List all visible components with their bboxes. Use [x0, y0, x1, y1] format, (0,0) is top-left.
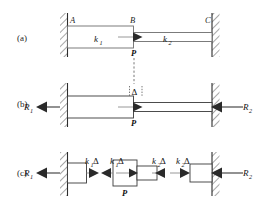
panel-a-left-wall: [60, 13, 68, 57]
panel-c-block-right-spring: [190, 164, 212, 182]
svg-text:R: R: [23, 168, 30, 178]
svg-text:R: R: [23, 102, 30, 112]
svg-text:Δ: Δ: [118, 156, 124, 166]
svg-text:1: 1: [100, 39, 103, 46]
svg-text:1: 1: [30, 107, 33, 114]
panel-a-label: (a): [17, 33, 27, 43]
panel-a-node-B: B: [130, 15, 135, 25]
svg-text:2: 2: [169, 39, 172, 46]
svg-text:Δ: Δ: [184, 156, 190, 166]
panel-a-right-wall: [212, 13, 220, 57]
panel-a-node-A: A: [69, 15, 76, 25]
engineering-figure: (a) A B C k 1 k 2: [0, 0, 262, 212]
svg-text:Δ: Δ: [160, 156, 166, 166]
panel-b-load-label-P: P: [131, 118, 137, 128]
panel-c-left-wall: [60, 152, 68, 196]
panel-b-left-wall: [60, 83, 68, 127]
svg-text:2: 2: [249, 107, 252, 114]
svg-text:2: 2: [249, 173, 252, 180]
panel-a-bar-segment-k2: [134, 33, 213, 42]
panel-a-node-C: C: [205, 15, 211, 25]
svg-text:Δ: Δ: [93, 156, 99, 166]
panel-b-bar-segment-k2: [134, 103, 213, 112]
svg-text:1: 1: [30, 173, 33, 180]
svg-text:R: R: [242, 168, 249, 178]
panel-c-block-left-spring: [68, 163, 87, 183]
panel-a-load-label-P: P: [131, 48, 137, 58]
panel-c-load-label-P: P: [122, 188, 128, 198]
panel-b-deflection-label: Δ: [132, 87, 138, 97]
svg-text:R: R: [242, 102, 249, 112]
